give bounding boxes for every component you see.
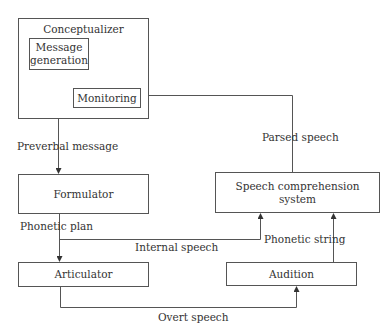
formulator-box: Formulator xyxy=(18,174,149,214)
speech-comprehension-box: Speech comprehension system xyxy=(215,172,380,213)
phonetic-string-label: Phonetic string xyxy=(264,233,345,245)
phonetic-plan-label: Phonetic plan xyxy=(20,220,93,232)
speech-comprehension-label: Speech comprehension system xyxy=(216,180,379,206)
overt-speech-label: Overt speech xyxy=(158,311,229,323)
preverbal-message-label: Preverbal message xyxy=(17,140,118,152)
message-generation-box: Message generation xyxy=(29,38,89,70)
conceptualizer-label: Conceptualizer xyxy=(43,23,124,36)
internal-speech-label: Internal speech xyxy=(135,241,218,253)
monitoring-label: Monitoring xyxy=(77,92,137,105)
message-generation-label: Message generation xyxy=(30,41,88,67)
edge-overt-speech xyxy=(61,287,297,308)
articulator-label: Articulator xyxy=(54,268,112,281)
formulator-label: Formulator xyxy=(54,188,114,201)
audition-label: Audition xyxy=(269,268,314,281)
monitoring-box: Monitoring xyxy=(73,88,141,108)
audition-box: Audition xyxy=(226,262,357,286)
parsed-speech-label: Parsed speech xyxy=(262,131,339,143)
articulator-box: Articulator xyxy=(18,262,149,287)
